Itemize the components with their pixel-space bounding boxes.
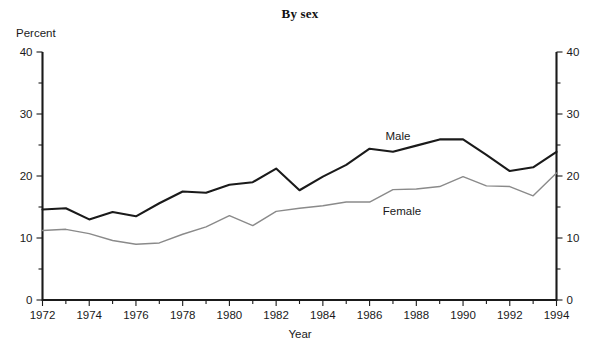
x-tick-label: 1978 [170,309,196,321]
series-annotation-female: Female [383,205,421,217]
y-tick-label-left: 40 [20,46,33,58]
series-line-female [43,173,557,244]
plot-area: 0102030400102030401972197419761978198019… [0,0,600,358]
y-tick-label-left: 30 [20,108,33,120]
y-tick-label-left: 10 [20,232,33,244]
x-tick-label: 1994 [544,309,570,321]
axis-spines [43,52,557,300]
y-tick-label-right: 30 [567,108,580,120]
x-tick-label: 1974 [76,309,102,321]
y-tick-label-right: 20 [567,170,580,182]
y-tick-label-right: 40 [567,46,580,58]
chart-figure: By sex Percent 0102030400102030401972197… [0,0,600,358]
y-tick-label-left: 20 [20,170,33,182]
x-tick-label: 1982 [263,309,289,321]
x-tick-label: 1976 [123,309,149,321]
y-tick-label-left: 0 [26,294,32,306]
x-tick-label: 1992 [497,309,523,321]
x-tick-label: 1988 [404,309,430,321]
x-axis-label: Year [0,328,600,340]
series-line-male [43,139,557,219]
x-tick-label: 1980 [217,309,243,321]
x-tick-label: 1984 [310,309,336,321]
series-annotation-male: Male [386,130,411,142]
x-tick-label: 1986 [357,309,383,321]
y-tick-label-right: 10 [567,232,580,244]
x-tick-label: 1990 [450,309,476,321]
y-tick-label-right: 0 [567,294,573,306]
x-tick-label: 1972 [30,309,56,321]
